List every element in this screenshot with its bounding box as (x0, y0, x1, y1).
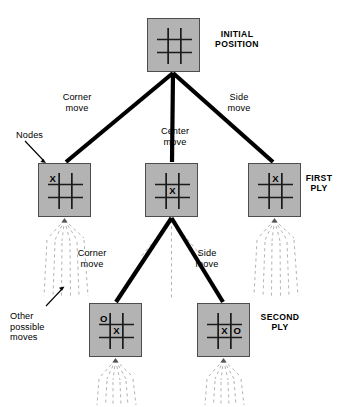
label-nodes: Nodes (16, 130, 43, 141)
tic-tac-toe-grid (39, 164, 92, 218)
node-second-ply-corner[interactable]: OX (89, 303, 142, 357)
label-second-ply: SECOND PLY (250, 313, 310, 333)
mark-o-top-left: O (99, 314, 109, 324)
label-first-ply: FIRST PLY (296, 174, 342, 194)
nodes-arrow-shaft (25, 141, 43, 160)
node-first-ply-center[interactable]: X (145, 163, 198, 217)
label-initial-position: INITIAL POSITION (199, 30, 275, 50)
label-other-possible-moves: Other possible moves (10, 311, 45, 343)
game-tree-diagram: XXXOXXO INITIAL POSITION FIRST PLY SECON… (0, 0, 342, 407)
node-initial-position[interactable] (147, 18, 200, 72)
label-edge-corner-move-ply1: Corner move (63, 248, 121, 269)
tic-tac-toe-grid (148, 19, 201, 73)
label-edge-side-move-ply1: Side move (184, 248, 230, 269)
mark-o-middle-right: O (232, 326, 242, 336)
label-edge-corner-move-root: Corner move (46, 92, 108, 113)
label-edge-side-move-root: Side move (215, 92, 263, 113)
node-second-ply-side[interactable]: XO (197, 303, 250, 357)
label-edge-center-move-root: Center move (146, 126, 204, 147)
mark-x-middle-center: X (168, 186, 178, 196)
mark-x-top-center: X (271, 174, 281, 184)
node-first-ply-side[interactable]: X (248, 163, 301, 217)
other-moves-arrow-shaft (46, 289, 62, 306)
mark-x-middle-center: X (220, 326, 230, 336)
mark-x-top-left: X (48, 174, 58, 184)
mark-x-middle-center: X (112, 326, 122, 336)
node-first-ply-corner[interactable]: X (38, 163, 91, 217)
other-moves-arrow-head (59, 287, 65, 291)
